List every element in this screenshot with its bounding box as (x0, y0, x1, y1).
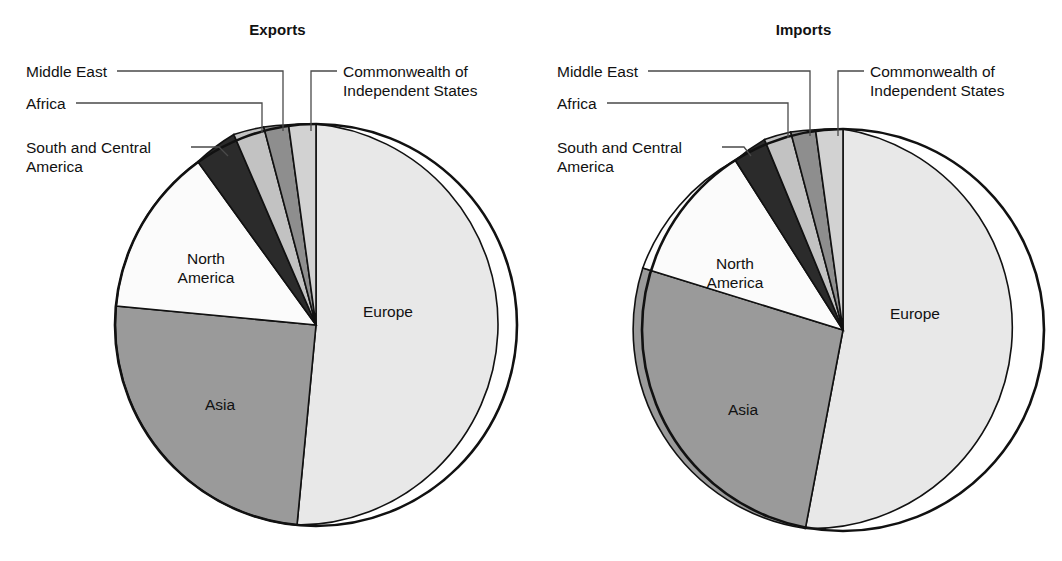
callout-label-commonwealth-of-independent-states: Commonwealth of Independent States (343, 62, 477, 100)
callout-label-south-and-central-america: South and Central America (557, 138, 682, 176)
callout-label-south-and-central-america: South and Central America (26, 138, 151, 176)
callout-label-commonwealth-of-independent-states: Commonwealth of Independent States (870, 62, 1004, 100)
slice-label-europe: Europe (343, 303, 433, 322)
pie-slices-imports (633, 129, 1012, 529)
leader-line-africa (607, 103, 788, 138)
callout-label-middle-east: Middle East (557, 62, 638, 81)
callout-label-africa: Africa (557, 94, 597, 113)
leader-line-middle-east (117, 71, 283, 131)
pie-slice-europe[interactable] (297, 124, 498, 525)
slice-label-north-america: North America (681, 255, 789, 292)
callout-label-africa: Africa (26, 94, 66, 113)
chart-panel-imports: Imports (531, 0, 1062, 561)
pie-chart-figure: Exports (0, 0, 1062, 561)
callout-label-middle-east: Middle East (26, 62, 107, 81)
leader-line-commonwealth (311, 71, 337, 131)
chart-panel-exports: Exports (0, 0, 531, 561)
leader-line-africa (76, 103, 262, 133)
slice-label-asia: Asia (703, 401, 783, 420)
slice-label-asia: Asia (180, 396, 260, 415)
pie-slice-asia[interactable] (115, 306, 316, 525)
slice-label-north-america: North America (152, 250, 260, 287)
leader-line-commonwealth (838, 71, 864, 136)
slice-label-europe: Europe (870, 305, 960, 324)
